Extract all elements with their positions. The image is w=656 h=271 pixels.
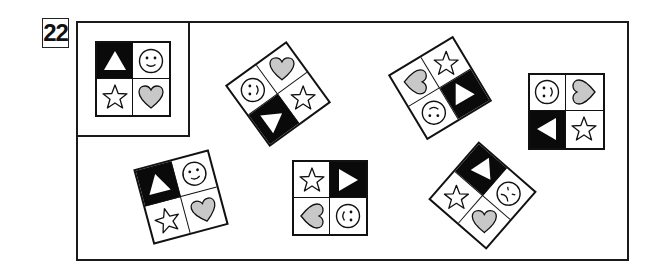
triangle-icon [464,153,496,185]
answer-tile-5[interactable] [292,160,368,236]
smiley-face-icon [176,155,213,192]
tile-cell-br [566,111,603,148]
smiley-face-icon [418,98,448,128]
star-icon [441,182,471,212]
tile-cell-tl [97,43,133,79]
triangle-icon [532,114,562,144]
star-icon [431,48,461,78]
heart-icon [569,77,599,107]
tile-cell-tr [566,75,603,112]
star-icon [100,82,130,112]
heart-icon [468,206,498,236]
star-icon [297,165,327,195]
triangle-icon [100,46,130,76]
heart-icon [400,67,430,97]
tile-cell-br [330,198,366,234]
smiley-face-icon [237,75,267,105]
tile-cell-bl [530,111,567,148]
tile-cell-tr [133,43,169,79]
tile-cell-tr [330,162,366,198]
heart-icon [297,201,327,231]
star-icon [569,114,599,144]
smiley-face-icon [532,77,562,107]
tile-cell-bl [97,79,133,115]
heart-icon [136,82,166,112]
heart-icon [185,192,222,229]
star-icon [288,83,318,113]
triangle-icon [450,79,480,109]
tile-cell-tl [294,162,330,198]
heart-icon [267,53,297,83]
tile-cell-tl [530,75,567,112]
triangle-icon [139,165,176,202]
smiley-face-icon [333,201,363,231]
tile-cell-br [133,79,169,115]
tile-cell-br [181,187,226,232]
tile-cell-bl [294,198,330,234]
answer-tile-3[interactable] [528,73,605,150]
star-icon [149,201,186,238]
smiley-face-icon [136,46,166,76]
question-number: 22 [42,18,69,48]
triangle-icon [333,165,363,195]
reference-tile [95,41,171,117]
